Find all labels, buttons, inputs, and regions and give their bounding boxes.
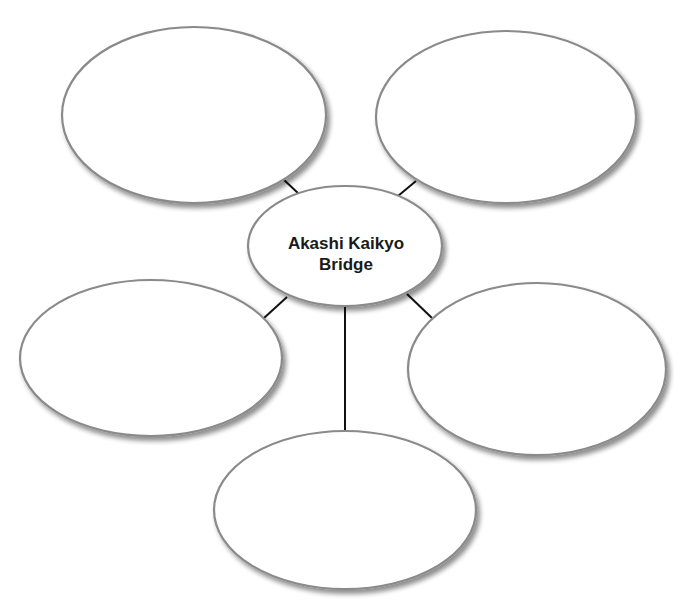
connector-middle-left xyxy=(264,297,287,318)
center-label-line1: Akashi Kaikyo xyxy=(288,234,404,253)
center-label-line2: Bridge xyxy=(319,255,373,274)
bubble-bottom[interactable] xyxy=(214,431,476,589)
connector-top-right xyxy=(398,181,416,196)
bubble-middle-left[interactable] xyxy=(20,280,282,436)
bubble-top-left[interactable] xyxy=(62,27,326,203)
connector-middle-right xyxy=(407,294,432,318)
web-diagram: Akashi Kaikyo Bridge xyxy=(0,0,687,616)
bubble-middle-right[interactable] xyxy=(408,283,666,455)
center-node: Akashi Kaikyo Bridge xyxy=(248,186,442,306)
bubble-top-right[interactable] xyxy=(376,31,636,203)
connector-top-left xyxy=(283,179,299,194)
